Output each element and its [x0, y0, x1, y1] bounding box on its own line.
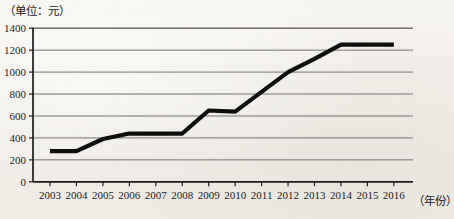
data-series-line: [50, 45, 394, 151]
gridlines-group: [33, 28, 413, 160]
x-tick-label: 2014: [330, 189, 353, 201]
y-tick-label: 600: [10, 110, 27, 122]
x-tick-labels-group: 2003200420052006200720082009201020112012…: [39, 189, 405, 201]
x-tick-label: 2015: [356, 189, 379, 201]
y-tick-label: 0: [21, 176, 27, 188]
y-tick-label: 1400: [4, 22, 27, 34]
chart-page: （单位：元） 1400120010008006004002000 2003200…: [0, 0, 454, 219]
x-tick-label: 2003: [39, 189, 62, 201]
y-tick-labels-group: 1400120010008006004002000: [4, 22, 27, 188]
x-tick-label: 2005: [92, 189, 115, 201]
x-tick-label: 2006: [118, 189, 141, 201]
x-tick-label: 2013: [304, 189, 327, 201]
x-tick-label: 2008: [171, 189, 194, 201]
x-axis-title: （年份）: [413, 192, 454, 208]
x-tick-label: 2011: [251, 189, 273, 201]
y-tick-label: 400: [10, 132, 27, 144]
x-tick-label: 2007: [145, 189, 168, 201]
y-tick-label: 200: [10, 154, 27, 166]
x-tick-label: 2004: [65, 189, 88, 201]
line-chart: 1400120010008006004002000 20032004200520…: [0, 0, 454, 219]
x-tick-label: 2012: [277, 189, 299, 201]
x-tick-label: 2010: [224, 189, 247, 201]
y-tick-label: 800: [10, 88, 27, 100]
y-tick-label: 1000: [4, 66, 27, 78]
y-tick-label: 1200: [4, 44, 27, 56]
x-tick-label: 2016: [383, 189, 406, 201]
x-tick-label: 2009: [198, 189, 221, 201]
